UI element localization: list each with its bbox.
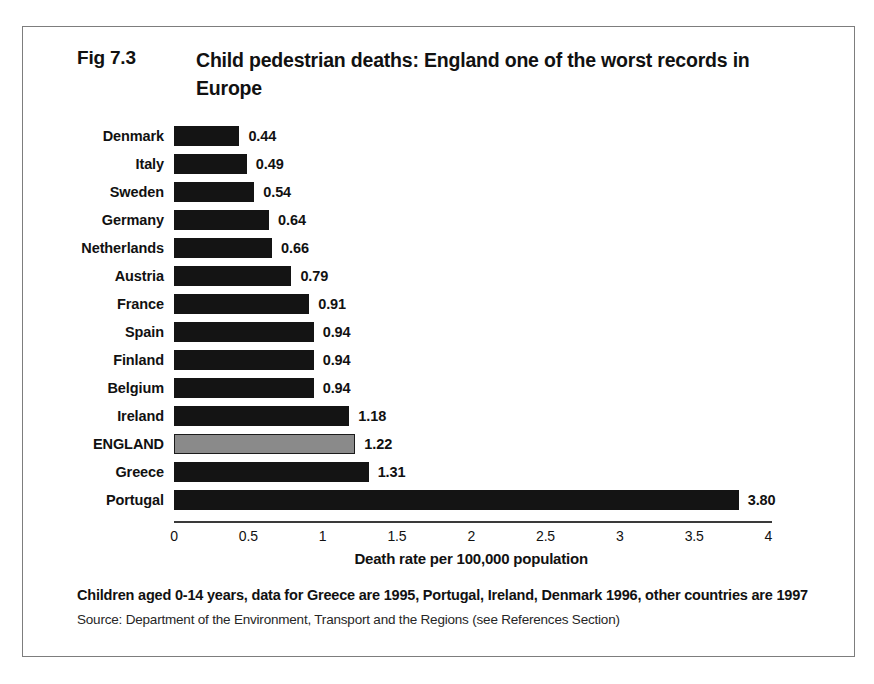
x-axis-tick-label: 3 xyxy=(598,528,642,544)
bar-value-label: 0.44 xyxy=(248,126,276,146)
bar xyxy=(174,238,272,258)
bar xyxy=(174,406,349,426)
bar-row: Finland0.94 xyxy=(23,350,856,370)
bar-row: Ireland1.18 xyxy=(23,406,856,426)
footnote-note: Children aged 0-14 years, data for Greec… xyxy=(77,585,817,607)
bar xyxy=(174,266,291,286)
bar-row: ENGLAND1.22 xyxy=(23,434,856,454)
bar xyxy=(174,378,314,398)
category-label: Belgium xyxy=(24,378,164,398)
category-label: Netherlands xyxy=(24,238,164,258)
bar xyxy=(174,154,247,174)
bar-row: Denmark0.44 xyxy=(23,126,856,146)
category-label: Finland xyxy=(24,350,164,370)
bar-value-label: 1.22 xyxy=(364,434,392,454)
bar-row: Belgium0.94 xyxy=(23,378,856,398)
bar-value-label: 0.94 xyxy=(323,378,351,398)
bar-highlighted xyxy=(174,434,355,454)
bar-value-label: 1.31 xyxy=(378,462,406,482)
bar xyxy=(174,126,239,146)
bar-value-label: 0.79 xyxy=(300,266,328,286)
footnote-source: Source: Department of the Environment, T… xyxy=(77,611,817,629)
category-label: Austria xyxy=(24,266,164,286)
x-axis-title: Death rate per 100,000 population xyxy=(174,550,768,567)
x-axis-tick-label: 4 xyxy=(746,528,790,544)
category-label: Spain xyxy=(24,322,164,342)
bar-row: France0.91 xyxy=(23,294,856,314)
x-axis-tick-label: 1.5 xyxy=(375,528,419,544)
x-axis-tick-label: 0.5 xyxy=(226,528,270,544)
category-label: Italy xyxy=(24,154,164,174)
bar-row: Germany0.64 xyxy=(23,210,856,230)
footnote-block: Children aged 0-14 years, data for Greec… xyxy=(77,585,817,629)
bar-row: Austria0.79 xyxy=(23,266,856,286)
bar xyxy=(174,462,369,482)
bar-chart-plot-area: Denmark0.44Italy0.49Sweden0.54Germany0.6… xyxy=(23,27,856,658)
category-label: Portugal xyxy=(24,490,164,510)
category-label: France xyxy=(24,294,164,314)
bar-value-label: 0.64 xyxy=(278,210,306,230)
x-axis-tick-label: 2 xyxy=(449,528,493,544)
figure-frame: Fig 7.3 Child pedestrian deaths: England… xyxy=(22,26,855,657)
bar-row: Sweden0.54 xyxy=(23,182,856,202)
category-label: Germany xyxy=(24,210,164,230)
bar-row: Italy0.49 xyxy=(23,154,856,174)
bar-value-label: 0.66 xyxy=(281,238,309,258)
x-axis-tick-label: 0 xyxy=(152,528,196,544)
bar-value-label: 1.18 xyxy=(358,406,386,426)
bar xyxy=(174,490,739,510)
bar xyxy=(174,322,314,342)
bar xyxy=(174,350,314,370)
bar-value-label: 0.94 xyxy=(323,350,351,370)
x-axis-tick-label: 2.5 xyxy=(524,528,568,544)
bar-value-label: 0.91 xyxy=(318,294,346,314)
bar-row: Netherlands0.66 xyxy=(23,238,856,258)
bar-row: Greece1.31 xyxy=(23,462,856,482)
bar-value-label: 0.94 xyxy=(323,322,351,342)
bar-row: Portugal3.80 xyxy=(23,490,856,510)
x-axis-tick-label: 1 xyxy=(301,528,345,544)
bar xyxy=(174,182,254,202)
bar xyxy=(174,294,309,314)
bar-value-label: 0.54 xyxy=(263,182,291,202)
category-label: Ireland xyxy=(24,406,164,426)
bar-value-label: 0.49 xyxy=(256,154,284,174)
bar xyxy=(174,210,269,230)
bar-row: Spain0.94 xyxy=(23,322,856,342)
x-axis-line xyxy=(174,521,772,523)
category-label: Denmark xyxy=(24,126,164,146)
x-axis-tick-label: 3.5 xyxy=(672,528,716,544)
category-label: Greece xyxy=(24,462,164,482)
bar-value-label: 3.80 xyxy=(748,490,776,510)
category-label: Sweden xyxy=(24,182,164,202)
category-label: ENGLAND xyxy=(24,434,164,454)
